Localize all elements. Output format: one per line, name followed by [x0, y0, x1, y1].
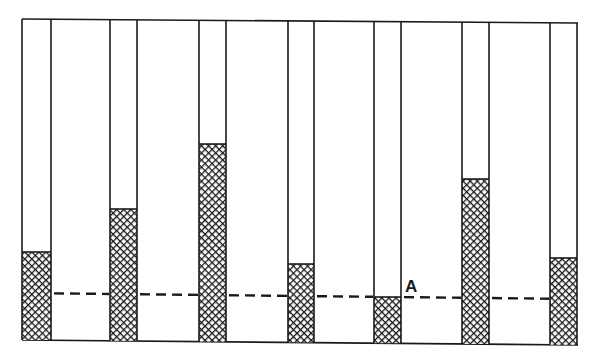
tube-fill-7 [550, 258, 577, 345]
tube-fill-1 [22, 252, 51, 340]
tube-5 [374, 22, 401, 344]
tube-level-diagram: A [0, 0, 596, 363]
reference-dash-segment [404, 297, 461, 298]
tube-7 [550, 23, 577, 345]
tube-4 [288, 21, 314, 343]
tube-fill-4 [288, 264, 314, 342]
tube-1 [22, 19, 51, 340]
tubes [22, 19, 577, 345]
tube-6 [462, 22, 489, 344]
tube-2 [110, 20, 137, 341]
reference-dash-segment [54, 293, 109, 294]
reference-dash-segment [140, 294, 198, 295]
reference-label-a: A [405, 277, 417, 296]
tube-fill-3 [199, 144, 226, 342]
tube-3 [199, 20, 226, 342]
reference-dash-segment [492, 298, 549, 299]
frame-top-edge [22, 19, 578, 23]
tube-fill-6 [462, 179, 489, 344]
reference-dash-segment [317, 296, 373, 297]
reference-dash-segment [229, 295, 287, 296]
tube-fill-5 [374, 297, 401, 343]
tube-fill-2 [110, 209, 137, 341]
